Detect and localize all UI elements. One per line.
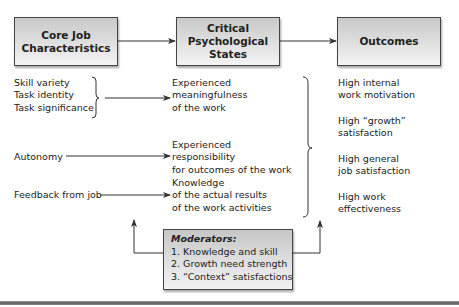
outcome-work-effectiveness: High work effectiveness bbox=[338, 191, 401, 216]
bottom-divider bbox=[0, 301, 459, 305]
critical-psychological-states-box: Critical Psychological States bbox=[176, 17, 280, 66]
outcome-general-satisfaction: High general job satisfaction bbox=[338, 153, 410, 178]
state-knowledge-of-results: Knowledge of the actual results of the w… bbox=[172, 177, 272, 214]
outcome-line: High general bbox=[338, 153, 410, 165]
state-line: Experienced bbox=[172, 139, 292, 151]
outcome-growth-satisfaction: High “growth” satisfaction bbox=[338, 115, 406, 140]
state-line: of the work bbox=[172, 102, 247, 114]
skill-variety-label: Skill variety bbox=[14, 77, 94, 89]
moderator-item: 2. Growth need strength bbox=[171, 258, 292, 271]
outcomes-box: Outcomes bbox=[337, 17, 441, 66]
outcomes-box-title: Outcomes bbox=[359, 35, 418, 48]
state-line: responsibility bbox=[172, 151, 292, 163]
moderator-right-arrow bbox=[293, 221, 320, 253]
state-responsibility: Experienced responsibility for outcomes … bbox=[172, 139, 292, 176]
outcome-line: High internal bbox=[338, 77, 415, 89]
state-line: Knowledge bbox=[172, 177, 272, 189]
outcome-line: effectiveness bbox=[338, 203, 401, 215]
brace-states bbox=[303, 77, 312, 217]
task-significance-label: Task significance bbox=[14, 102, 94, 114]
outcome-line: High “growth” bbox=[338, 115, 406, 127]
core-characteristics-group: Skill variety Task identity Task signifi… bbox=[14, 77, 94, 114]
cropped-caption bbox=[0, 0, 459, 4]
state-line: meaningfulness bbox=[172, 89, 247, 101]
core-box-title: Core Job Characteristics bbox=[21, 29, 110, 55]
moderators-title: Moderators: bbox=[171, 233, 292, 246]
state-line: of the actual results bbox=[172, 189, 272, 201]
moderator-item: 3. “Context” satisfactions bbox=[171, 271, 292, 284]
moderators-box: Moderators: 1. Knowledge and skill 2. Gr… bbox=[163, 229, 293, 290]
autonomy-label: Autonomy bbox=[14, 151, 63, 163]
outcome-line: satisfaction bbox=[338, 127, 406, 139]
outcome-line: work motivation bbox=[338, 89, 415, 101]
state-line: for outcomes of the work bbox=[172, 164, 292, 176]
outcome-internal-motivation: High internal work motivation bbox=[338, 77, 415, 102]
outcome-line: High work bbox=[338, 191, 401, 203]
moderator-item: 1. Knowledge and skill bbox=[171, 246, 292, 259]
moderator-left-arrow bbox=[134, 220, 163, 253]
feedback-label: Feedback from job bbox=[14, 189, 102, 201]
state-line: of the work activities bbox=[172, 202, 272, 214]
critical-box-title: Critical Psychological States bbox=[188, 22, 268, 61]
outcome-line: job satisfaction bbox=[338, 165, 410, 177]
task-identity-label: Task identity bbox=[14, 89, 94, 101]
state-meaningfulness: Experienced meaningfulness of the work bbox=[172, 77, 247, 114]
state-line: Experienced bbox=[172, 77, 247, 89]
core-job-characteristics-box: Core Job Characteristics bbox=[14, 17, 118, 66]
